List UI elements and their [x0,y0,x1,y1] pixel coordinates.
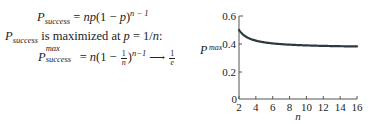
y-tick-label: 0.4 [222,38,236,50]
svg-text:max: max [209,43,223,52]
y-tick-labels: 0 0.2 0.4 0.6 [222,10,237,105]
x-tick-label: 6 [270,101,276,113]
pmax-chart: 0 0.2 0.4 0.6 246810121416 n P max [0,0,370,124]
x-tick-label: 4 [253,101,259,113]
x-tick-label: 16 [352,101,364,113]
y-ticks [239,16,243,72]
y-axis-label: P max [199,43,223,57]
svg-text:P: P [199,43,208,57]
x-tick-label: 8 [287,101,293,113]
x-tick-label: 10 [301,101,313,113]
x-tick-label: 14 [335,101,347,113]
x-tick-label: 2 [236,101,242,113]
x-axis-label: n [295,110,301,122]
y-tick-label: 0.2 [222,66,236,78]
x-tick-label: 12 [318,101,329,113]
y-tick-label: 0.6 [222,10,236,22]
pmax-curve [239,30,357,47]
